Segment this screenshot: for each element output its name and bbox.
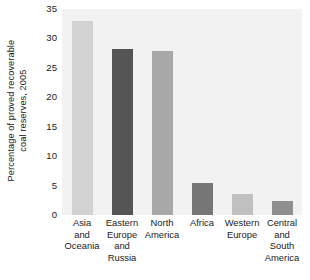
bar-central-and-south-america[interactable] [272, 201, 293, 215]
y-axis-title: Percentage of proved recoverable coal re… [0, 0, 36, 222]
x-label-line: America [142, 229, 182, 241]
bar-slot [142, 9, 182, 215]
x-label-line: Russia [102, 252, 142, 264]
bar-slot [262, 9, 302, 215]
x-label-line: Eastern [102, 217, 142, 229]
x-label-eastern-europe-and-russia: Eastern Europe and Russia [102, 217, 142, 279]
x-label-line: Asia [62, 217, 102, 229]
bar-western-europe[interactable] [232, 194, 253, 215]
y-tick-label: 10 [46, 151, 57, 161]
x-label-line: and [262, 229, 302, 241]
x-label-line: Europe [222, 229, 262, 241]
bar-eastern-europe-and-russia[interactable] [112, 49, 133, 215]
x-label-africa: Africa [182, 217, 222, 279]
y-tick-label: 30 [46, 33, 57, 43]
x-label-line: America [262, 252, 302, 264]
bar-north-america[interactable] [152, 51, 173, 215]
x-label-line: Central [262, 217, 302, 229]
y-axis-title-line-2: coal reserves, 2005 [18, 40, 30, 182]
y-tick-label: 0 [52, 210, 57, 220]
plot-area [62, 9, 302, 215]
x-label-line: North [142, 217, 182, 229]
x-label-line: Oceania [62, 240, 102, 252]
y-tick-label: 5 [52, 181, 57, 191]
bar-africa[interactable] [192, 183, 213, 215]
x-label-asia-and-oceania: Asia and Oceania [62, 217, 102, 279]
bar-chart: Percentage of proved recoverable coal re… [0, 0, 310, 280]
x-label-western-europe: Western Europe [222, 217, 262, 279]
y-tick-label: 15 [46, 122, 57, 132]
x-label-line: Western [222, 217, 262, 229]
bar-slot [182, 9, 222, 215]
x-label-line: South [262, 240, 302, 252]
y-tick-label: 25 [46, 63, 57, 73]
y-tick-label: 20 [46, 92, 57, 102]
x-label-line: Europe [102, 229, 142, 241]
bar-asia-and-oceania[interactable] [72, 21, 93, 215]
y-axis-tick-labels: 35 30 25 20 15 10 5 0 [36, 0, 60, 222]
bars-layer [62, 9, 302, 215]
x-label-line: and [102, 240, 142, 252]
x-label-central-and-south-america: Central and South America [262, 217, 302, 279]
x-label-north-america: North America [142, 217, 182, 279]
bar-slot [222, 9, 262, 215]
y-axis-title-line-1: Percentage of proved recoverable [6, 40, 18, 182]
x-axis-tick-labels: Asia and Oceania Eastern Europe and Russ… [62, 217, 302, 279]
x-label-line: Africa [182, 217, 222, 229]
y-tick-label: 35 [46, 4, 57, 14]
x-label-line: and [62, 229, 102, 241]
bar-slot [102, 9, 142, 215]
bar-slot [62, 9, 102, 215]
